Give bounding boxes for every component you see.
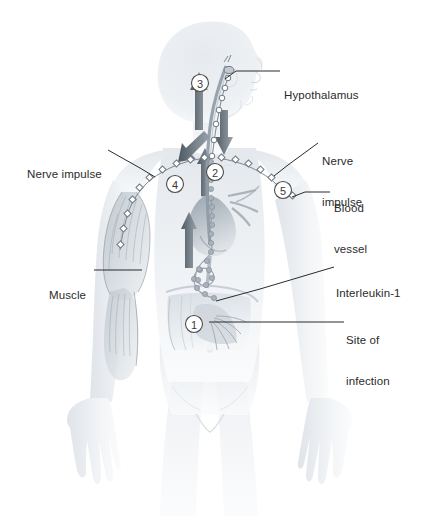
- label-hypothalamus-line-1: Hypothalamus: [284, 89, 359, 103]
- label-site-of-infection-line-2: infection: [346, 375, 390, 389]
- label-muscle-line-1: Muscle: [49, 289, 86, 303]
- label-nerve-impulse-right-line-1: Nerve: [322, 155, 362, 169]
- marker-3-number: 3: [197, 78, 203, 90]
- marker-5-number: 5: [280, 185, 286, 197]
- label-interleukin-1-line-1: Interleukin-1: [336, 287, 401, 301]
- hand-right: [298, 398, 352, 484]
- abdomen-group: [167, 293, 251, 350]
- hand-left: [67, 398, 121, 484]
- marker-2: 2: [207, 164, 224, 181]
- marker-1: 1: [186, 316, 203, 333]
- marker-3: 3: [192, 75, 209, 92]
- label-nerve-impulse-left-line-1: Nerve impulse: [27, 168, 102, 182]
- fever-pathway-figure: 1 2 3 4 5: [0, 0, 424, 516]
- arm-right: [275, 180, 329, 402]
- forearm-muscle: [104, 288, 138, 380]
- marker-4-number: 4: [172, 179, 178, 191]
- muscle-group: [103, 192, 150, 380]
- marker-2-number: 2: [212, 167, 218, 179]
- marker-1-number: 1: [191, 319, 197, 331]
- label-blood-vessel-line-2: vessel: [334, 243, 367, 257]
- label-site-of-infection-line-1: Site of: [346, 334, 390, 348]
- marker-4: 4: [167, 176, 184, 193]
- label-hypothalamus: Hypothalamus: [284, 62, 359, 130]
- label-blood-vessel-line-1: Blood: [334, 202, 367, 216]
- marker-5: 5: [275, 182, 292, 199]
- head: [158, 22, 263, 124]
- label-nerve-impulse-left: Nerve impulse: [27, 141, 102, 209]
- label-muscle: Muscle: [49, 262, 86, 330]
- label-site-of-infection: Site of infection: [346, 307, 390, 415]
